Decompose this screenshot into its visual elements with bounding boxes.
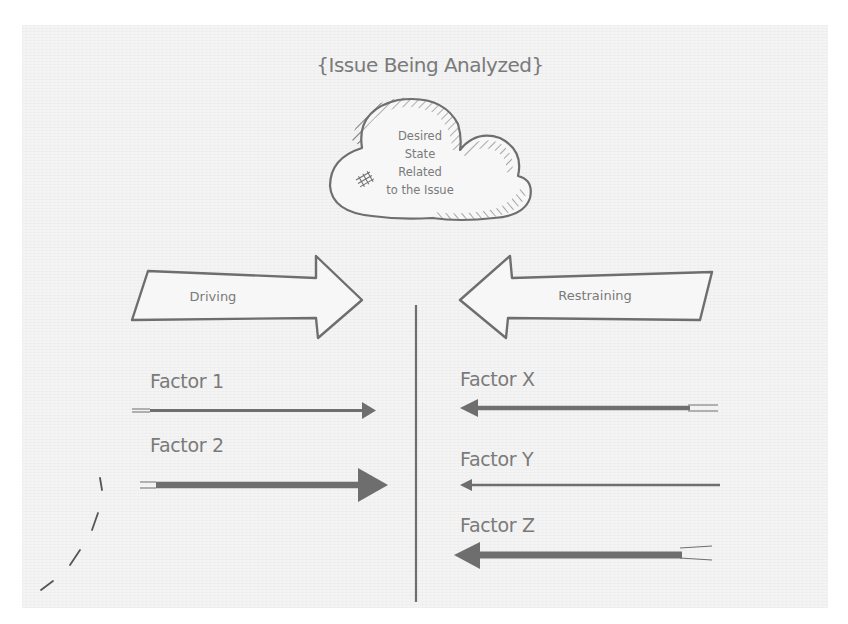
driving-forces-arrow: Driving bbox=[132, 256, 362, 338]
diagram-title: {Issue Being Analyzed} bbox=[316, 53, 543, 77]
factor-1-arrow bbox=[132, 402, 376, 419]
desired-state-line-2: State bbox=[405, 147, 435, 161]
factor-y-label: Factor Y bbox=[460, 448, 534, 470]
restraining-factor-z: Factor Z bbox=[454, 514, 712, 569]
restraining-factor-y: Factor Y bbox=[460, 448, 720, 491]
factor-y-arrow bbox=[460, 479, 720, 491]
desired-state-line-4: to the Issue bbox=[386, 183, 453, 197]
factor-2-label: Factor 2 bbox=[150, 434, 224, 456]
factor-x-arrow bbox=[460, 399, 718, 417]
driving-factor-2: Factor 2 bbox=[140, 434, 388, 502]
dashed-curve-mark bbox=[41, 478, 102, 590]
driving-factor-1: Factor 1 bbox=[132, 370, 376, 419]
driving-label: Driving bbox=[190, 289, 237, 304]
restraining-forces-arrow: Restraining bbox=[460, 256, 712, 338]
restraining-factor-x: Factor X bbox=[460, 368, 718, 417]
desired-state-line-1: Desired bbox=[398, 129, 442, 143]
factor-2-arrow bbox=[140, 468, 388, 502]
factor-z-label: Factor Z bbox=[460, 514, 535, 536]
desired-state-line-3: Related bbox=[398, 165, 442, 179]
factor-z-arrow bbox=[454, 542, 712, 569]
desired-state-cloud: Desired State Related to the Issue bbox=[330, 98, 531, 220]
factor-1-label: Factor 1 bbox=[150, 370, 224, 392]
force-field-diagram: {Issue Being Analyzed} Desired State Rel… bbox=[0, 0, 848, 624]
restraining-label: Restraining bbox=[558, 288, 632, 303]
factor-x-label: Factor X bbox=[460, 368, 535, 390]
